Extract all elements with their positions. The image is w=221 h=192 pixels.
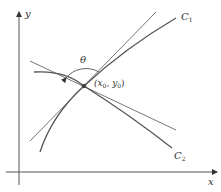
y-axis-label: y <box>24 8 31 19</box>
tangent-line-c2 <box>30 61 176 130</box>
x-axis-label: x <box>208 176 214 187</box>
angle-label: θ <box>80 54 86 65</box>
curve-c1-label: C1 <box>181 11 192 23</box>
intersection-point <box>82 84 87 89</box>
point-label: (x0, y0) <box>94 78 125 89</box>
intersection-angle-diagram: y x θ C1 C2 (x0, y0) <box>0 0 221 192</box>
curve-c2-label: C2 <box>174 150 186 162</box>
